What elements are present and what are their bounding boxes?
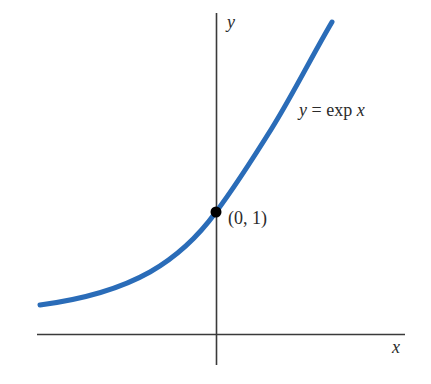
curve-label-x: x bbox=[357, 100, 365, 120]
curve-label-y: y bbox=[299, 100, 307, 120]
y-axis-label: y bbox=[227, 13, 235, 31]
point-marker-0-1 bbox=[211, 207, 222, 218]
exponential-function-figure: y x y = exp x (0, 1) bbox=[0, 0, 431, 384]
point-coordinate-label: (0, 1) bbox=[228, 209, 267, 227]
x-axis-label: x bbox=[392, 338, 400, 356]
exponential-curve bbox=[40, 22, 332, 305]
curve-equation-label: y = exp x bbox=[299, 101, 365, 119]
curve-label-equals: = bbox=[312, 100, 322, 120]
curve-label-fn: exp bbox=[326, 100, 352, 120]
plot-canvas bbox=[0, 0, 431, 384]
